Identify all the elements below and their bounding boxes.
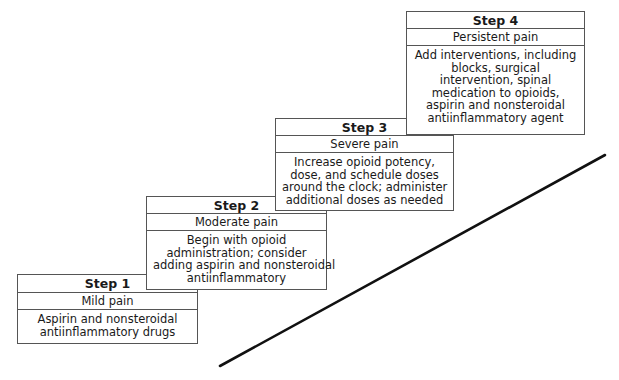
step-2-desc-line: adding aspirin and nonsteroidal: [153, 259, 320, 272]
step-4-desc-line: antiinflammatory agent: [413, 112, 578, 125]
step-4-description: Add interventions, including blocks, sur…: [407, 46, 584, 134]
step-2-pain-level: Moderate pain: [147, 214, 326, 231]
step-2-desc-line: Begin with opioid: [153, 234, 320, 247]
step-3-desc-line: Increase opioid potency,: [282, 156, 447, 169]
step-4-desc-line: intervention, spinal: [413, 74, 578, 87]
step-4-pain-level: Persistent pain: [407, 29, 584, 46]
step-4-title: Step 4: [407, 12, 584, 29]
step-3-description: Increase opioid potency, dose, and sched…: [276, 153, 453, 210]
step-4-box: Step 4 Persistent pain Add interventions…: [406, 11, 585, 135]
step-4-desc-line: Add interventions, including: [413, 49, 578, 62]
step-1-pain-level: Mild pain: [18, 293, 197, 310]
step-1-description: Aspirin and nonsteroidal antiinflammator…: [18, 310, 197, 343]
step-1-desc-line: Aspirin and nonsteroidal: [24, 313, 191, 326]
step-2-desc-line: antiinflammatory: [153, 272, 320, 285]
step-3-desc-line: around the clock; administer: [282, 181, 447, 194]
step-1-desc-line: antiinflammatory drugs: [24, 326, 191, 339]
step-3-desc-line: additional doses as needed: [282, 194, 447, 207]
step-3-pain-level: Severe pain: [276, 136, 453, 153]
step-2-description: Begin with opioid administration; consid…: [147, 231, 326, 289]
